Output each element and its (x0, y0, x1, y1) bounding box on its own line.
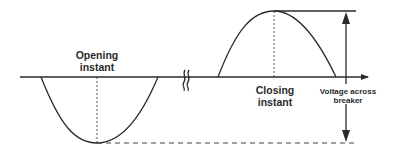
breaker-voltage-diagram: Opening instant Closing instant Voltage … (0, 0, 396, 152)
negative-half-wave (41, 77, 158, 143)
opening-instant-label-2: instant (80, 61, 115, 73)
arrow-up-icon (342, 12, 350, 24)
positive-half-wave (218, 11, 336, 77)
voltage-label: Voltage across (320, 87, 377, 96)
voltage-label-2: breaker (334, 96, 363, 105)
arrow-down-icon (342, 130, 350, 142)
axis-break-icon (183, 70, 189, 91)
closing-instant-label-2: instant (258, 96, 293, 108)
opening-instant-label: Opening (76, 49, 119, 61)
closing-instant-label: Closing (256, 84, 295, 96)
